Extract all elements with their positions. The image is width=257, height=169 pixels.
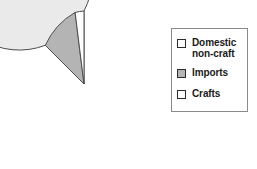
swatch-domestic-non-craft	[177, 39, 186, 48]
legend-label-crafts: Crafts	[192, 88, 220, 99]
chart-legend: Domestic non-craft Imports Crafts	[171, 28, 248, 112]
pie-chart-graphic	[0, 0, 170, 169]
pie-chart-figure: Domestic non-craft Imports Crafts	[0, 0, 257, 169]
legend-item-crafts: Crafts	[177, 88, 220, 99]
swatch-imports	[177, 69, 186, 78]
legend-label-domestic-non-craft: Domestic non-craft	[192, 37, 236, 59]
swatch-crafts	[177, 90, 186, 99]
legend-label-imports: Imports	[192, 67, 228, 78]
legend-item-domestic-non-craft: Domestic non-craft	[177, 37, 236, 59]
legend-item-imports: Imports	[177, 67, 228, 78]
